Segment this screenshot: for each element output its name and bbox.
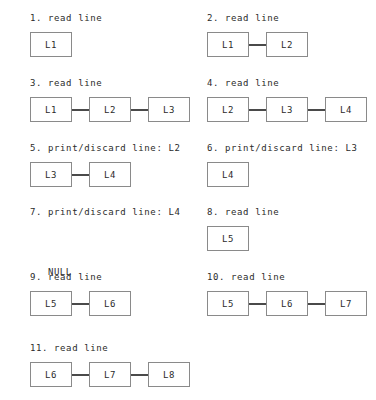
list-node: L7	[89, 362, 131, 387]
list-node: L2	[207, 97, 249, 122]
step-6: 6. print/discard line: L3 L4	[207, 143, 357, 187]
list-node: L5	[30, 291, 72, 316]
step-11: 11. read line L6L7L8	[30, 343, 190, 387]
list-node: L4	[207, 162, 249, 187]
step-6-chain: L4	[207, 162, 357, 187]
step-2-label: 2. read line	[207, 13, 308, 24]
step-11-chain: L6L7L8	[30, 362, 190, 387]
step-10: 10. read line L5L6L7	[207, 272, 367, 316]
step-11-label: 11. read line	[30, 343, 190, 354]
list-node: L3	[30, 162, 72, 187]
node-link	[72, 291, 89, 316]
step-8: 8. read line L5	[207, 207, 279, 251]
list-node: L1	[30, 32, 72, 57]
step-1: 1. read line L1	[30, 13, 102, 57]
list-node: L1	[30, 97, 72, 122]
node-link	[72, 162, 89, 187]
list-node: L5	[207, 226, 249, 251]
step-6-label: 6. print/discard line: L3	[207, 143, 357, 154]
list-node: L2	[89, 97, 131, 122]
node-link	[72, 362, 89, 387]
step-3-chain: L1L2L3	[30, 97, 190, 122]
node-link	[249, 291, 266, 316]
step-9-chain: L5L6	[30, 291, 131, 316]
node-link	[249, 97, 266, 122]
list-node: L4	[89, 162, 131, 187]
node-link	[72, 97, 89, 122]
step-3: 3. read line L1L2L3	[30, 78, 190, 122]
step-8-chain: L5	[207, 226, 279, 251]
step-4-chain: L2L3L4	[207, 97, 367, 122]
list-node: L6	[30, 362, 72, 387]
list-node: L6	[266, 291, 308, 316]
node-link	[308, 97, 325, 122]
node-link	[131, 97, 148, 122]
list-node: L7	[325, 291, 367, 316]
node-link	[249, 32, 266, 57]
step-1-chain: L1	[30, 32, 102, 57]
list-node: L2	[266, 32, 308, 57]
list-node: L4	[325, 97, 367, 122]
node-link	[131, 362, 148, 387]
list-node: L6	[89, 291, 131, 316]
step-4: 4. read line L2L3L4	[207, 78, 367, 122]
list-node: L5	[207, 291, 249, 316]
step-5: 5. print/discard line: L2 L3L4	[30, 143, 180, 187]
step-10-chain: L5L6L7	[207, 291, 367, 316]
step-7-label: 7. print/discard line: L4	[30, 207, 180, 218]
list-node: L1	[207, 32, 249, 57]
step-8-label: 8. read line	[207, 207, 279, 218]
list-node: L3	[266, 97, 308, 122]
step-7: 7. print/discard line: L4 NULL	[30, 207, 180, 277]
list-node: L3	[148, 97, 190, 122]
step-9-label: 9. read line	[30, 272, 131, 283]
step-7-chain	[30, 226, 180, 251]
step-9: 9. read line L5L6	[30, 272, 131, 316]
step-10-label: 10. read line	[207, 272, 367, 283]
step-5-label: 5. print/discard line: L2	[30, 143, 180, 154]
node-link	[308, 291, 325, 316]
step-2-chain: L1L2	[207, 32, 308, 57]
step-2: 2. read line L1L2	[207, 13, 308, 57]
step-4-label: 4. read line	[207, 78, 367, 89]
step-1-label: 1. read line	[30, 13, 102, 24]
step-3-label: 3. read line	[30, 78, 190, 89]
step-5-chain: L3L4	[30, 162, 180, 187]
list-node: L8	[148, 362, 190, 387]
